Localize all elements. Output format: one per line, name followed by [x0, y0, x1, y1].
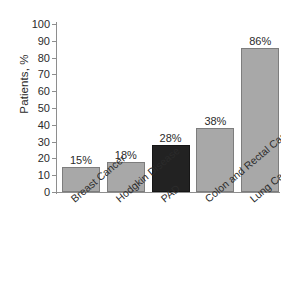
y-tick-mark: [52, 24, 56, 25]
y-tick-mark: [52, 58, 56, 59]
bar-value-label: 86%: [249, 36, 271, 47]
bar-value-label: 38%: [204, 116, 226, 127]
y-tick-label: 60: [38, 86, 50, 97]
y-tick-label: 70: [38, 69, 50, 80]
y-axis-line: [56, 22, 57, 194]
y-tick-mark: [52, 108, 56, 109]
y-tick-label: 100: [32, 19, 50, 30]
y-tick-label: 0: [44, 187, 50, 198]
bar-value-label: 15%: [70, 155, 92, 166]
y-tick-label: 40: [38, 119, 50, 130]
y-tick-label: 20: [38, 153, 50, 164]
y-tick-mark: [52, 125, 56, 126]
y-tick-mark: [52, 158, 56, 159]
y-tick-mark: [52, 175, 56, 176]
y-tick-label: 30: [38, 136, 50, 147]
y-tick-label: 10: [38, 170, 50, 181]
y-axis-title: Patients, %: [18, 24, 30, 144]
y-tick-mark: [52, 142, 56, 143]
y-tick-label: 50: [38, 103, 50, 114]
y-tick-mark: [52, 74, 56, 75]
y-tick-mark: [52, 192, 56, 193]
bar-value-label: 28%: [160, 133, 182, 144]
y-tick-label: 90: [38, 35, 50, 46]
plot-area: 1009080706050403020100 15%18%28%38%86% B…: [56, 24, 280, 192]
y-tick-label: 80: [38, 52, 50, 63]
y-tick-mark: [52, 91, 56, 92]
bar-chart: Patients, % 1009080706050403020100 15%18…: [0, 0, 281, 292]
y-tick-mark: [52, 41, 56, 42]
